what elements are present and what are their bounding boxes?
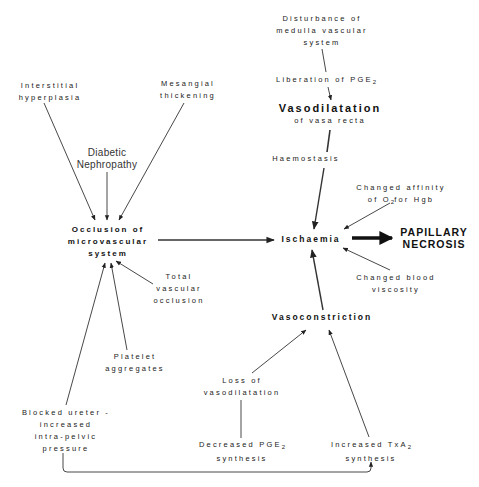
node-papillary-necrosis: PAPILLARY NECROSIS [394,226,474,250]
node-affinity-line: Changed affinity [345,182,457,194]
node-platelet-line: aggregates [100,363,170,375]
text: for Hgb [394,195,434,204]
node-occlusion-line: Occlusion of [58,224,158,236]
node-decreased-pge2: Decreased PGE2 synthesis [196,439,288,465]
node-disturbance-line: medulla vascular [262,25,382,37]
node-vasoconstriction-text: Vasoconstriction [272,312,373,322]
subscript: 2 [373,79,376,85]
edge-viscosity-ischaemia [343,248,390,270]
text: Decreased PGE [199,440,282,449]
node-blocked-line: Blocked ureter - [14,407,118,419]
node-vasoconstriction: Vasoconstriction [262,311,382,323]
node-increased-txa2: Increased TxA2 synthesis [326,439,416,465]
node-changed-affinity: Changed affinity of O2for Hgb [345,182,457,208]
node-vasodilatation: Vasodilatation of vasa recta [270,102,390,127]
node-txa2-line: Increased TxA2 [326,439,416,453]
node-txa2-line: synthesis [326,453,416,465]
node-loss-vasodilatation: Loss of vasodilatation [196,375,288,399]
node-total-occlusion-line: Total [150,271,208,283]
node-diabetic-nephropathy: Diabetic Nephropathy [74,147,140,171]
node-disturbance: Disturbance of medulla vascular system [262,13,382,49]
node-mesangial: Mesangial thickening [156,78,220,102]
node-liberation: Liberation of PGE2 [266,74,386,88]
node-ischaemia: Ischaemia [276,233,346,245]
node-interstitial-line: hyperplasia [14,92,86,104]
node-viscosity-line: Changed blood [346,272,446,284]
subscript: 2 [408,444,411,450]
node-blocked-line: intra-pelvic [14,431,118,443]
node-disturbance-line: Disturbance of [262,13,382,25]
node-total-occlusion: Total vascular occlusion [150,271,208,307]
node-vasodilatation-subtitle: of vasa recta [270,115,390,127]
node-ischaemia-text: Ischaemia [281,234,340,244]
node-necrosis-line: PAPILLARY [394,226,474,238]
edge-blocked-occlusion [66,263,105,405]
edge-loss-vasoconstriction [252,330,306,373]
node-decreased-pge2-line: Decreased PGE2 [196,439,288,453]
node-occlusion: Occlusion of microvascular system [58,224,158,260]
papillary-necrosis-diagram: Disturbance of medulla vascular system L… [0,0,479,487]
edge-haemostasis-ischaemia [314,168,324,229]
node-necrosis-line: NECROSIS [394,238,474,250]
node-diabetic-line: Diabetic [74,147,140,159]
node-affinity-line: of O2for Hgb [345,194,457,208]
edge-liberation-vasodilatation [328,87,331,100]
node-haemostasis: Haemostasis [268,153,344,165]
node-viscosity-line: viscosity [346,284,446,296]
node-total-occlusion-line: vascular [150,283,208,295]
node-mesangial-line: Mesangial [156,78,220,90]
node-diabetic-line: Nephropathy [74,159,140,171]
node-loss-line: vasodilatation [196,387,288,399]
node-changed-viscosity: Changed blood viscosity [346,272,446,296]
node-interstitial: Interstitial hyperplasia [14,80,86,104]
edge-total-occlusion-occlusion [116,261,153,284]
node-occlusion-line: microvascular [58,236,158,248]
node-platelet: Platelet aggregates [100,351,170,375]
node-mesangial-line: thickening [156,90,220,102]
edge-vasodilatation-haemostasis [327,130,330,152]
subscript: 2 [282,444,285,450]
text: of O [368,195,391,204]
edge-platelet-occlusion [111,263,127,350]
node-decreased-pge2-line: synthesis [196,453,288,465]
text: Increased TxA [331,440,408,449]
node-blocked-line: increased [14,419,118,431]
node-loss-line: Loss of [196,375,288,387]
edge-vasoconstriction-ischaemia [312,250,323,310]
node-blocked-line: pressure [14,443,118,455]
edge-txa-vasoconstriction [329,330,369,437]
node-disturbance-line: system [262,37,382,49]
node-haemostasis-text: Haemostasis [272,154,340,163]
edge-disturbance-liberation [322,49,326,72]
node-total-occlusion-line: occlusion [150,295,208,307]
node-liberation-text: Liberation of PGE [276,75,373,84]
node-platelet-line: Platelet [100,351,170,363]
node-vasodilatation-title: Vasodilatation [270,102,390,115]
node-interstitial-line: Interstitial [14,80,86,92]
node-blocked-ureter: Blocked ureter - increased intra-pelvic … [14,407,118,455]
node-occlusion-line: system [58,248,158,260]
